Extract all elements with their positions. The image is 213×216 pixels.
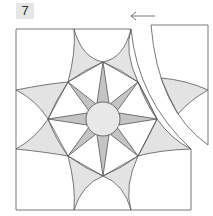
quilt-block-diagram: [0, 0, 213, 216]
corner-wedge: [68, 29, 103, 82]
corner-wedge: [103, 156, 138, 210]
center-circle: [86, 102, 120, 136]
star-point: [48, 113, 87, 125]
corner-wedge: [103, 29, 138, 82]
corner-wedge: [138, 119, 191, 156]
corner-wedge: [68, 156, 103, 210]
arrow-left-icon: [131, 12, 155, 20]
corner-wedge: [16, 119, 68, 156]
star-point: [119, 113, 157, 125]
star-point: [97, 135, 109, 176]
corner-wedge: [16, 82, 68, 119]
star-point: [97, 62, 109, 103]
